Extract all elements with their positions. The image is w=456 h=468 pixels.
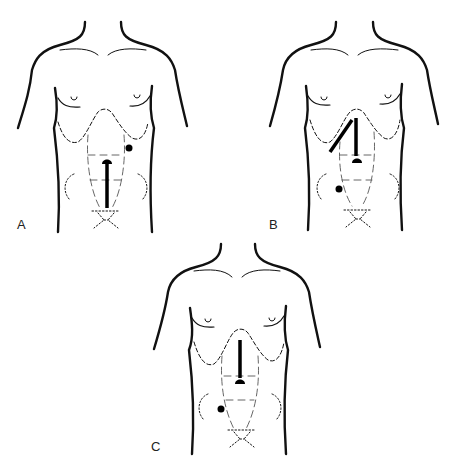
- port-dot: [126, 145, 133, 152]
- panel-a: A: [0, 0, 228, 234]
- panel-c: C: [114, 234, 342, 468]
- torso-outline-b: [228, 0, 456, 234]
- panel-label-a: A: [17, 217, 26, 232]
- subcostal-incision-line: [330, 120, 352, 152]
- panel-label-b: B: [269, 217, 278, 232]
- panel-label-c: C: [151, 439, 160, 454]
- torso-outline-a: [0, 0, 228, 234]
- panel-b: B: [228, 0, 456, 234]
- port-dot: [336, 186, 343, 193]
- torso-outline-c: [114, 234, 342, 468]
- port-dot: [218, 406, 225, 413]
